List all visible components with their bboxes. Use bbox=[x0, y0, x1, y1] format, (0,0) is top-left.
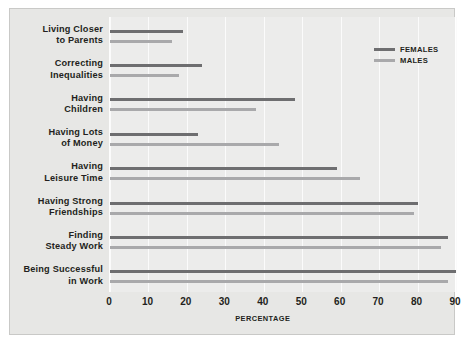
bar-males bbox=[110, 74, 179, 77]
legend-label-females: FEMALES bbox=[400, 45, 438, 54]
category-label-line: Having Strong bbox=[10, 196, 103, 207]
bar-males bbox=[110, 143, 279, 146]
category-label-line: Steady Work bbox=[10, 241, 103, 252]
category-label: HavingChildren bbox=[10, 93, 103, 116]
value-axis-tick-label: 60 bbox=[334, 296, 345, 307]
bar-males bbox=[110, 212, 414, 215]
bar-males bbox=[110, 177, 360, 180]
gridline bbox=[225, 17, 226, 292]
value-axis-tick-label: 20 bbox=[180, 296, 191, 307]
category-label-line: Having bbox=[10, 161, 103, 172]
gridline bbox=[341, 17, 342, 292]
category-label: Having Lotsof Money bbox=[10, 127, 103, 150]
category-label-line: Being Successful bbox=[10, 264, 103, 275]
category-label-line: Living Closer bbox=[10, 24, 103, 35]
legend-swatch-males-icon bbox=[374, 59, 395, 62]
gridline bbox=[456, 17, 457, 292]
bar-males bbox=[110, 280, 448, 283]
category-label-line: Having Lots bbox=[10, 127, 103, 138]
bar-males bbox=[110, 246, 441, 249]
category-label: HavingLeisure Time bbox=[10, 161, 103, 184]
gridline bbox=[264, 17, 265, 292]
category-label-line: Having bbox=[10, 93, 103, 104]
bar-females bbox=[110, 30, 183, 33]
gridline bbox=[110, 17, 111, 292]
category-label-line: Correcting bbox=[10, 58, 103, 69]
bar-females bbox=[110, 167, 337, 170]
category-label: FindingSteady Work bbox=[10, 230, 103, 253]
legend-item-males: MALES bbox=[374, 55, 438, 66]
bar-females bbox=[110, 133, 198, 136]
category-label: Having StrongFriendships bbox=[10, 196, 103, 219]
legend-item-females: FEMALES bbox=[374, 44, 438, 55]
category-label: Living Closerto Parents bbox=[10, 24, 103, 47]
category-label: Being Successfulin Work bbox=[10, 264, 103, 287]
category-label: CorrectingInequalities bbox=[10, 58, 103, 81]
value-axis-tick-label: 40 bbox=[257, 296, 268, 307]
category-label-line: to Parents bbox=[10, 35, 103, 46]
bar-females bbox=[110, 98, 295, 101]
bar-chart-figure: Living Closerto ParentsCorrectingInequal… bbox=[9, 8, 455, 335]
category-label-line: in Work bbox=[10, 276, 103, 287]
category-label-line: of Money bbox=[10, 138, 103, 149]
value-axis-tick-label: 0 bbox=[106, 296, 112, 307]
legend-label-males: MALES bbox=[400, 56, 428, 65]
category-label-line: Leisure Time bbox=[10, 173, 103, 184]
category-label-line: Inequalities bbox=[10, 70, 103, 81]
gridline bbox=[187, 17, 188, 292]
value-axis: PERCENTAGE 0102030405060708090 bbox=[109, 292, 455, 336]
bar-females bbox=[110, 64, 202, 67]
category-axis: Living Closerto ParentsCorrectingInequal… bbox=[10, 9, 109, 292]
value-axis-tick-label: 30 bbox=[219, 296, 230, 307]
gridline bbox=[148, 17, 149, 292]
legend-swatch-females-icon bbox=[374, 48, 395, 51]
value-axis-tick-label: 80 bbox=[411, 296, 422, 307]
bar-males bbox=[110, 40, 172, 43]
value-axis-title: PERCENTAGE bbox=[235, 314, 290, 323]
gridline bbox=[302, 17, 303, 292]
category-label-line: Finding bbox=[10, 230, 103, 241]
category-label-line: Children bbox=[10, 104, 103, 115]
value-axis-tick-label: 70 bbox=[373, 296, 384, 307]
bar-males bbox=[110, 108, 256, 111]
category-label-line: Friendships bbox=[10, 207, 103, 218]
bar-females bbox=[110, 270, 456, 273]
value-axis-tick-label: 50 bbox=[296, 296, 307, 307]
value-axis-tick-label: 10 bbox=[142, 296, 153, 307]
bar-females bbox=[110, 202, 418, 205]
value-axis-tick-label: 90 bbox=[449, 296, 460, 307]
bar-females bbox=[110, 236, 448, 239]
chart-legend: FEMALES MALES bbox=[374, 44, 438, 66]
